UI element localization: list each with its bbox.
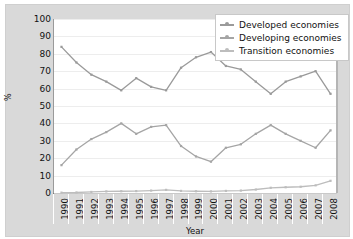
data-point (285, 133, 287, 135)
x-axis-tick: 2007 (307, 194, 322, 224)
data-point (240, 68, 242, 70)
data-point (180, 67, 182, 69)
data-point (90, 191, 92, 193)
legend-item[interactable]: Transition economies (220, 44, 342, 57)
legend-item[interactable]: Developing economies (220, 31, 342, 44)
x-axis-tick: 1996 (143, 194, 158, 224)
data-point (285, 186, 287, 188)
data-point (255, 133, 257, 135)
y-axis-tick-label: 50 (40, 102, 51, 111)
y-axis-tick-label: 10 (40, 172, 51, 181)
data-point (165, 89, 167, 91)
chart-screenshot: 1009080706050403020100 % 199019911992199… (0, 0, 353, 239)
chart-frame: 1009080706050403020100 % 199019911992199… (5, 4, 350, 237)
data-point (180, 190, 182, 192)
data-point (90, 138, 92, 140)
data-point (300, 140, 302, 142)
data-point (300, 75, 302, 77)
data-point (60, 164, 62, 166)
x-axis-tick: 1990 (53, 194, 68, 224)
x-axis-labels: 1990199119921993199419951996199719981999… (53, 194, 337, 224)
x-axis-tick: 1992 (83, 194, 98, 224)
x-axis-tick: 1993 (98, 194, 113, 224)
data-point (150, 189, 152, 191)
data-point (75, 61, 77, 63)
legend-item-label: Developed economies (239, 20, 339, 30)
x-axis-tick: 1998 (173, 194, 188, 224)
data-point (90, 74, 92, 76)
data-point (314, 184, 316, 186)
data-point (300, 186, 302, 188)
x-axis-tick: 2008 (322, 194, 337, 224)
data-point (120, 122, 122, 124)
data-point (210, 190, 212, 192)
y-axis-tick-label: 40 (40, 119, 51, 128)
y-axis-tick-label: 90 (40, 32, 51, 41)
data-point (314, 70, 316, 72)
legend-swatch-icon (220, 50, 234, 52)
x-axis-tick-label: 2008 (330, 198, 339, 220)
chart-legend: Developed economiesDeveloping economiesT… (215, 14, 349, 61)
data-point (60, 46, 62, 48)
data-point (150, 86, 152, 88)
data-point (314, 147, 316, 149)
x-axis-tick: 2006 (292, 194, 307, 224)
y-axis-tick-label: 80 (40, 50, 51, 59)
data-point (270, 93, 272, 95)
data-point (195, 190, 197, 192)
data-point (195, 155, 197, 157)
x-axis-title: Year (53, 226, 337, 236)
data-point (329, 129, 331, 131)
data-point (210, 51, 212, 53)
data-point (195, 56, 197, 58)
series-line (61, 123, 330, 165)
data-point (240, 189, 242, 191)
data-point (225, 147, 227, 149)
data-point (105, 131, 107, 133)
data-point (225, 190, 227, 192)
data-point (150, 126, 152, 128)
data-point (135, 133, 137, 135)
y-axis-tick-label: 30 (40, 137, 51, 146)
x-axis-tick: 2001 (217, 194, 232, 224)
x-axis-tick: 2002 (232, 194, 247, 224)
x-axis-tick: 2003 (247, 194, 262, 224)
data-point (240, 143, 242, 145)
legend-item-label: Developing economies (239, 33, 342, 43)
x-axis-tick: 1997 (158, 194, 173, 224)
data-point (210, 161, 212, 163)
x-axis-tick: 1995 (128, 194, 143, 224)
legend-item[interactable]: Developed economies (220, 18, 342, 31)
y-axis-tick-label: 100 (34, 15, 51, 24)
y-axis-tick-label: 60 (40, 85, 51, 94)
data-point (225, 65, 227, 67)
legend-swatch-icon (220, 37, 234, 39)
data-point (255, 81, 257, 83)
y-axis-tick-label: 70 (40, 67, 51, 76)
y-axis-tick-label: 20 (40, 154, 51, 163)
y-axis-tick-label: 0 (45, 189, 51, 198)
legend-item-label: Transition economies (239, 46, 334, 56)
data-point (255, 188, 257, 190)
data-point (329, 180, 331, 182)
data-point (105, 190, 107, 192)
x-axis-tick: 2005 (277, 194, 292, 224)
x-axis-tick: 1991 (68, 194, 83, 224)
data-point (165, 189, 167, 191)
data-point (75, 148, 77, 150)
legend-swatch-icon (220, 24, 234, 26)
data-point (180, 145, 182, 147)
data-point (120, 89, 122, 91)
data-point (285, 81, 287, 83)
y-axis-title: % (4, 93, 13, 101)
x-axis-tick: 1994 (113, 194, 128, 224)
data-point (270, 124, 272, 126)
data-point (165, 124, 167, 126)
x-axis-tick: 2004 (262, 194, 277, 224)
data-point (135, 77, 137, 79)
data-point (270, 187, 272, 189)
data-point (120, 190, 122, 192)
data-point (329, 93, 331, 95)
x-axis-tick: 2000 (202, 194, 217, 224)
data-point (105, 81, 107, 83)
